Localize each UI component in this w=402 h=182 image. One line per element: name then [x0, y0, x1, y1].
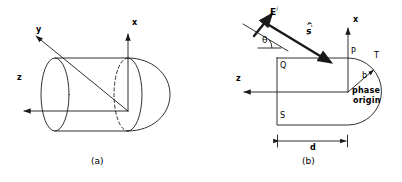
panel-a-z-axis-label: z	[17, 74, 22, 82]
panel-b-x-axis-label: x	[353, 16, 358, 24]
cylinder-right-ellipse-hidden	[114, 58, 128, 131]
figure-container: x y z (a) x z Ei ^s' θ P Q S T b phase o…	[0, 0, 402, 182]
phase-origin-line2: origin	[353, 97, 381, 105]
cylinder-right-ellipse-front	[128, 58, 142, 131]
phase-origin-line1: phase	[352, 87, 380, 95]
incident-field-superscript: i	[276, 5, 278, 12]
panel-a-y-axis	[36, 36, 128, 111]
incidence-angle-label: θ	[262, 36, 268, 45]
hemispherical-cap	[128, 58, 170, 131]
propagation-direction-label: ^s'	[305, 25, 314, 37]
panel-a-x-axis-label: x	[132, 19, 137, 27]
point-s-label: S	[280, 112, 285, 120]
cylinder-left-ellipse	[41, 58, 69, 131]
incident-field-label: Ei	[270, 6, 278, 17]
dimension-d-label: d	[310, 144, 316, 152]
point-t-label: T	[374, 52, 379, 60]
panel-a-caption: (a)	[91, 157, 104, 166]
propagation-direction-arrow	[264, 22, 330, 62]
radius-b-label: b	[362, 72, 367, 80]
panel-b-z-axis-label: z	[236, 75, 241, 83]
figure-vector-graphics	[0, 0, 402, 182]
point-q-label: Q	[280, 62, 286, 70]
panel-b-caption: (b)	[302, 157, 315, 166]
panel-a-graphics	[24, 34, 170, 131]
point-p-label: P	[351, 48, 356, 56]
panel-a-y-axis-label: y	[36, 26, 41, 34]
